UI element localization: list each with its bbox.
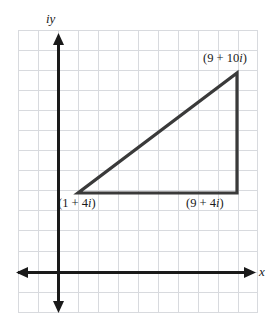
vertex-label-bottom-right-suffix: ) <box>219 196 223 210</box>
y-axis-arrow-up <box>53 33 64 45</box>
vertex-label-bottom-left-prefix: (1 + 4 <box>58 196 88 210</box>
vertex-label-bottom-left: (1 + 4i) <box>58 197 96 210</box>
vertex-label-top-right-suffix: ) <box>243 51 247 65</box>
axes <box>16 33 256 313</box>
x-axis-arrow-right <box>244 267 256 278</box>
y-axis-arrow-down <box>53 301 64 313</box>
grid <box>18 30 258 313</box>
grid-vertical-lines <box>19 30 258 313</box>
figure-canvas <box>0 0 279 331</box>
x-axis-label: x <box>259 265 265 278</box>
vertex-label-top-right-prefix: (9 + 10 <box>203 51 239 65</box>
complex-plane-figure: iy x (9 + 10i) (1 + 4i) (9 + 4i) <box>0 0 279 331</box>
vertex-label-bottom-right-prefix: (9 + 4 <box>186 196 216 210</box>
x-axis-arrow-left <box>16 267 28 278</box>
y-axis-label: iy <box>46 12 55 25</box>
vertex-label-top-right: (9 + 10i) <box>203 52 247 65</box>
vertex-label-bottom-right: (9 + 4i) <box>186 197 224 210</box>
vertex-label-bottom-left-suffix: ) <box>91 196 95 210</box>
